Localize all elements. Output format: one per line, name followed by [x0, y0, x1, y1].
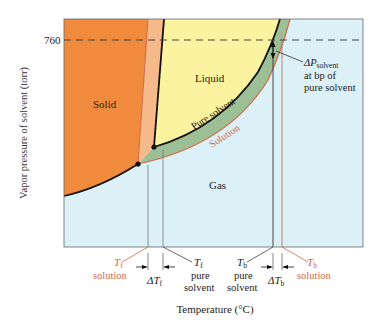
phase-diagram: Solid Liquid Gas Pure solvent Solution 7… [0, 0, 381, 320]
triple-point-pure [151, 144, 156, 149]
delta-tf-label: ΔTf [146, 274, 163, 288]
y-tick-760: 760 [44, 34, 61, 46]
tf-pure-symbol: Tf [194, 256, 203, 270]
tb-pure-symbol: Tb [237, 256, 247, 270]
tf-pure-label2: solvent [184, 282, 214, 293]
delta-tb-label: ΔTb [267, 274, 285, 288]
gas-label: Gas [209, 179, 226, 191]
tb-solution-symbol: Tb [307, 256, 317, 270]
tf-pure-label1: pure [191, 270, 210, 281]
tb-pure-label1: pure [234, 270, 253, 281]
tb-pure-leader [247, 247, 273, 262]
tb-solution-label: solution [297, 270, 332, 281]
triple-point-solution [135, 161, 140, 166]
tf-pure-leader [163, 247, 192, 262]
delta-p-symbol: ΔP [303, 57, 317, 68]
x-axis-label: Temperature (°C) [176, 303, 254, 316]
delta-tf-arrowhead-left [142, 265, 148, 269]
delta-tb-arrowhead-left [267, 265, 273, 269]
delta-p-subscript: solvent [317, 61, 340, 70]
tb-pure-label2: solvent [227, 282, 257, 293]
y-axis-label: Vapor pressure of solvent (torr) [18, 67, 30, 199]
delta-p-line2: at bp of [304, 70, 337, 81]
tf-solution-label: solution [93, 270, 128, 281]
tf-solution-leader [122, 247, 148, 262]
delta-p-line3: pure solvent [304, 82, 356, 93]
tf-solution-symbol: Tf [114, 256, 123, 270]
delta-tb-arrowhead-right [282, 265, 288, 269]
liquid-label: Liquid [195, 72, 225, 84]
solid-label: Solid [93, 98, 117, 110]
tb-solution-leader [282, 247, 308, 262]
delta-tf-arrowhead-right [163, 265, 169, 269]
